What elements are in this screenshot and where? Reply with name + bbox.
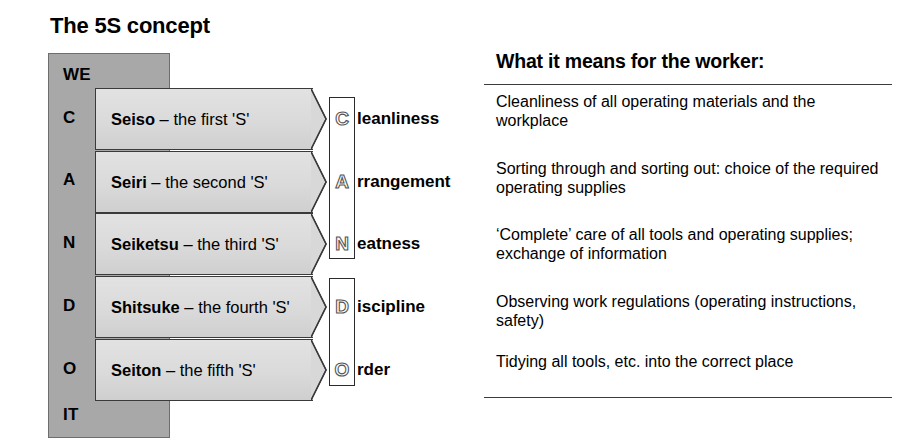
english-word-remainder: rder [357,339,390,401]
panel-divider-bottom [484,397,892,398]
concept-arrow-row: Seiton – the fifth 'S' [95,339,327,401]
arrow-head-icon [311,213,327,275]
arrow-term: Seiri [111,173,147,191]
arrow-head-icon [311,276,327,338]
arrow-term: Seiton [111,361,161,379]
english-word-remainder: eatness [357,213,420,275]
arrow-term-suffix: – the third 'S' [179,235,279,253]
english-word-remainder: rrangement [357,151,451,213]
arrow-head-icon [311,88,327,150]
page-title: The 5S concept [50,13,210,39]
meaning-item: Tidying all tools, etc. into the correct… [496,352,888,371]
outlined-initial-letter: N [329,213,355,275]
acrostic-letter: C [63,109,76,126]
arrow-label: Seiso – the first 'S' [111,88,249,150]
arrow-term-suffix: – the fourth 'S' [180,298,290,316]
meaning-item: Sorting through and sorting out: choice … [496,159,888,197]
concept-arrow-row: Seiso – the first 'S' [95,88,327,150]
arrow-label: Seiton – the fifth 'S' [111,339,256,401]
outlined-initial-letter: A [329,151,355,213]
outlined-initial-letter: C [329,88,355,150]
arrow-head-icon [311,151,327,213]
meaning-item: ‘Complete’ care of all tools and operati… [496,225,888,263]
meaning-item: Observing work regulations (operating in… [496,292,888,330]
english-word-remainder: leanliness [357,88,439,150]
worker-panel-heading: What it means for the worker: [496,50,764,73]
acrostic-letter: WE [63,66,91,83]
acrostic-letter: D [63,297,76,314]
concept-arrow-row: Seiketsu – the third 'S' [95,213,327,275]
arrow-term: Seiketsu [111,235,179,253]
arrow-label: Shitsuke – the fourth 'S' [111,276,290,338]
acrostic-letter: IT [63,406,79,423]
english-word-remainder: iscipline [357,276,425,338]
arrow-term-suffix: – the fifth 'S' [161,361,255,379]
concept-arrow-row: Seiri – the second 'S' [95,151,327,213]
arrow-term-suffix: – the first 'S' [155,110,249,128]
outlined-initial-letter: D [329,276,355,338]
outlined-initial-letter: O [329,339,355,401]
panel-divider-top [484,84,892,85]
arrow-label: Seiketsu – the third 'S' [111,213,279,275]
arrow-term-suffix: – the second 'S' [147,173,268,191]
arrow-label: Seiri – the second 'S' [111,151,268,213]
arrow-term: Shitsuke [111,298,180,316]
arrow-term: Seiso [111,110,155,128]
concept-arrow-row: Shitsuke – the fourth 'S' [95,276,327,338]
arrow-head-icon [311,339,327,401]
acrostic-letter: N [63,234,76,251]
meaning-item: Cleanliness of all operating materials a… [496,92,888,130]
acrostic-letter: O [63,360,77,377]
acrostic-letter: A [63,171,76,188]
